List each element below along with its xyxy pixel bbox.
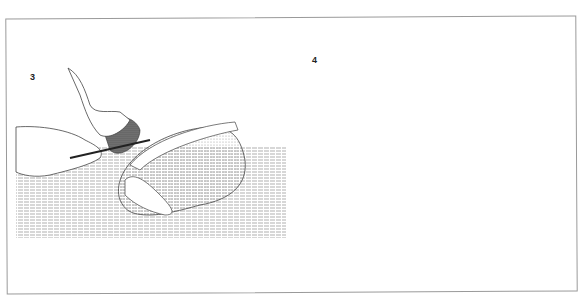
hand-top [68,68,130,136]
illustration [0,0,583,300]
panel-number-4: 4 [312,55,317,65]
panel-number-3: 3 [30,72,35,82]
panel-3-drawing [16,68,286,238]
